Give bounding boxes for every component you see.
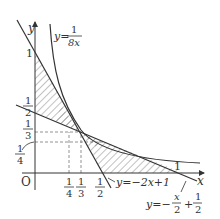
x-axis-label: x — [197, 174, 204, 188]
svg-text:2: 2 — [195, 204, 201, 215]
svg-text:1: 1 — [25, 95, 31, 106]
svg-text:1: 1 — [195, 191, 201, 202]
svg-text:1: 1 — [71, 24, 77, 35]
svg-text:+: + — [184, 198, 193, 211]
pointer-quarter — [22, 142, 34, 150]
svg-text:1: 1 — [25, 118, 31, 129]
line1-label: y=−2x+1 — [115, 176, 170, 189]
svg-text:4: 4 — [17, 155, 23, 166]
svg-text:y=−: y=− — [145, 198, 171, 211]
svg-text:2: 2 — [174, 204, 180, 215]
svg-text:2: 2 — [97, 188, 103, 199]
svg-text:1: 1 — [66, 176, 72, 187]
svg-text:x: x — [174, 191, 180, 202]
svg-text:3: 3 — [78, 188, 84, 199]
diagram: y x O 1 1 2 1 3 1 4 1 4 1 3 1 2 1 y= 1 8… — [0, 0, 220, 219]
line2-label: y=− x 2 + 1 2 — [145, 191, 202, 215]
hyperbola-label: y= 1 8x — [53, 24, 82, 48]
y-tick-half: 1 2 — [23, 95, 33, 118]
svg-text:y=: y= — [53, 30, 69, 43]
svg-text:1: 1 — [97, 176, 103, 187]
x-tick-third: 1 3 — [76, 176, 86, 199]
x-tick-1: 1 — [174, 160, 181, 173]
graph-svg: y x O 1 1 2 1 3 1 4 1 4 1 3 1 2 1 y= 1 8… — [0, 0, 220, 219]
x-tick-half: 1 2 — [95, 176, 105, 199]
pointer-line1 — [108, 178, 115, 182]
y-tick-third: 1 3 — [23, 118, 33, 141]
svg-text:8x: 8x — [68, 37, 80, 48]
origin-label: O — [21, 175, 31, 189]
y-tick-quarter: 1 4 — [15, 143, 25, 166]
svg-text:2: 2 — [25, 107, 31, 118]
y-tick-1: 1 — [26, 47, 33, 60]
svg-text:1: 1 — [78, 176, 84, 187]
svg-text:1: 1 — [17, 143, 23, 154]
pointer-line2 — [181, 181, 186, 192]
y-axis-label: y — [27, 21, 35, 35]
svg-text:4: 4 — [66, 188, 72, 199]
svg-text:3: 3 — [25, 130, 31, 141]
shaded-region — [35, 53, 183, 173]
x-tick-quarter: 1 4 — [64, 176, 74, 199]
